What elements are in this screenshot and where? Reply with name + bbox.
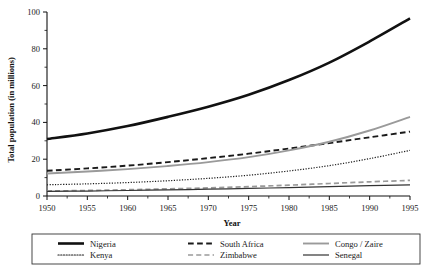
x-tick-label: 1970 bbox=[200, 203, 217, 213]
x-tick-label: 1995 bbox=[402, 203, 419, 213]
y-tick-label: 60 bbox=[32, 81, 41, 91]
x-tick-label: 1965 bbox=[160, 203, 177, 213]
legend-label: Nigeria bbox=[90, 239, 116, 249]
y-tick-label: 0 bbox=[36, 191, 40, 201]
legend-label: Senegal bbox=[335, 250, 363, 260]
legend-item-senegal[interactable]: Senegal bbox=[303, 250, 363, 260]
x-tick-label: 1990 bbox=[361, 203, 378, 213]
series-lines bbox=[47, 18, 410, 191]
series-line-congo-zaire bbox=[47, 117, 410, 174]
x-tick-label: 1985 bbox=[321, 203, 338, 213]
x-tick-label: 1980 bbox=[281, 203, 298, 213]
population-line-chart: 020406080100 195019551960196519701975198… bbox=[0, 0, 425, 271]
x-tick-label: 1950 bbox=[39, 203, 56, 213]
legend-item-zimbabwe[interactable]: Zimbabwe bbox=[188, 250, 257, 260]
legend-item-congo-zaire[interactable]: Congo / Zaire bbox=[303, 239, 383, 249]
legend-label: South Africa bbox=[220, 239, 264, 249]
legend-label: Kenya bbox=[90, 250, 113, 260]
y-tick-label: 80 bbox=[32, 44, 41, 54]
series-line-south-africa bbox=[47, 132, 410, 171]
chart-canvas: 020406080100 195019551960196519701975198… bbox=[0, 0, 425, 271]
y-tick-label: 100 bbox=[27, 7, 40, 17]
x-tick-label: 1955 bbox=[79, 203, 96, 213]
y-axis-title: Total population (in millions) bbox=[6, 57, 16, 163]
legend-item-kenya[interactable]: Kenya bbox=[58, 250, 113, 260]
legend-label: Zimbabwe bbox=[220, 250, 257, 260]
y-axis: 020406080100 bbox=[27, 7, 47, 201]
legend-label: Congo / Zaire bbox=[335, 239, 383, 249]
legend-item-nigeria[interactable]: Nigeria bbox=[58, 239, 116, 249]
x-axis: 1950195519601965197019751980198519901995 bbox=[39, 196, 419, 213]
y-tick-label: 20 bbox=[32, 154, 41, 164]
legend-item-south-africa[interactable]: South Africa bbox=[188, 239, 264, 249]
x-tick-label: 1975 bbox=[240, 203, 257, 213]
x-axis-title: Year bbox=[224, 218, 241, 228]
y-tick-label: 40 bbox=[32, 117, 41, 127]
legend: NigeriaKenyaSouth AfricaZimbabweCongo / … bbox=[32, 234, 420, 264]
x-tick-label: 1960 bbox=[119, 203, 136, 213]
series-line-nigeria bbox=[47, 18, 410, 139]
